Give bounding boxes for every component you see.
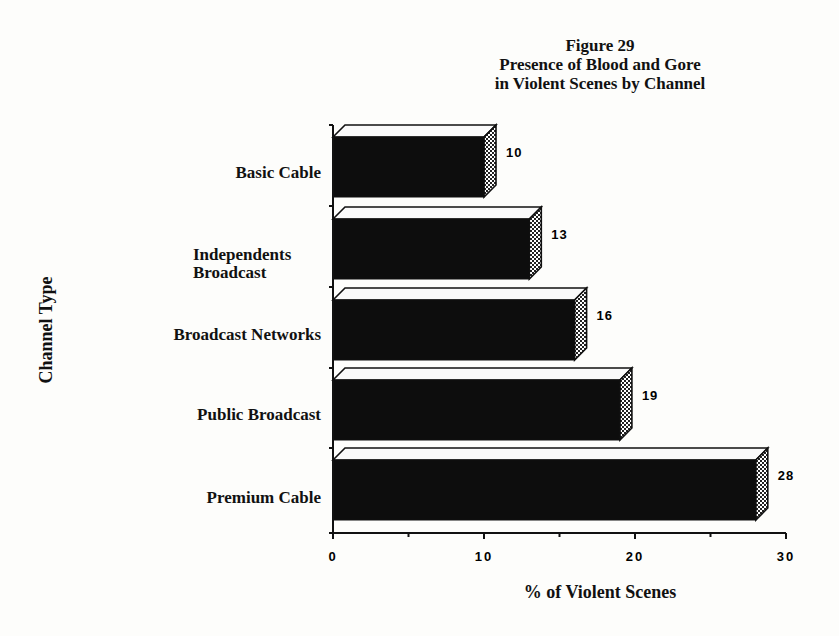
bar-front-face [333,300,575,360]
x-axis-label: % of Violent Scenes [480,582,720,603]
bar-value-label: 28 [778,468,794,483]
bar-top-face [333,288,587,300]
bar-front-face [333,460,756,520]
bar-value-label: 19 [642,388,658,403]
bar-value-label: 13 [551,227,567,242]
bar: 19 [333,368,658,440]
bar-front-face [333,219,529,279]
bar: 13 [333,207,568,279]
bar-side-face [529,207,541,279]
plot-area: 1013161928 0102030 [0,0,839,636]
x-tick-label: 10 [475,549,493,564]
bar: 28 [333,448,794,520]
bars: 1013161928 [333,125,794,520]
bar-front-face [333,380,620,440]
bar-side-face [756,448,768,520]
bar: 10 [333,125,522,197]
bar-top-face [333,448,768,460]
bar-side-face [484,125,496,197]
x-tick-label: 20 [626,549,644,564]
bar-side-face [620,368,632,440]
x-tick-label: 30 [777,549,795,564]
bar-top-face [333,125,496,137]
x-tick-label: 0 [328,549,337,564]
bar-front-face [333,137,484,197]
bar-top-face [333,207,541,219]
bar-value-label: 16 [597,308,613,323]
bar: 16 [333,288,613,360]
bar-value-label: 10 [506,145,522,160]
bar-side-face [575,288,587,360]
bar-top-face [333,368,632,380]
